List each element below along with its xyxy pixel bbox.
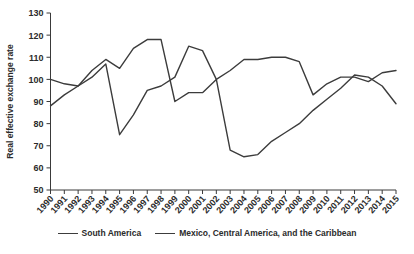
y-tick-label: 80: [33, 119, 43, 129]
series-lines: [51, 40, 397, 157]
legend-label-south-america: South America: [82, 228, 142, 238]
line-chart-plot: 5060708090100110120130 19901991199219931…: [0, 0, 414, 254]
y-tick-label: 110: [29, 53, 44, 63]
y-axis-title: Real effective exchange rate: [5, 44, 15, 159]
legend-label-mexico-central-america-caribbean: Mexico, Central America, and the Caribbe…: [179, 228, 356, 238]
y-tick-label: 50: [33, 185, 43, 195]
series-line-0: [51, 40, 397, 102]
y-tick-label: 130: [28, 8, 43, 18]
y-axis: 5060708090100110120130: [28, 8, 50, 195]
chart-figure: 5060708090100110120130 19901991199219931…: [0, 0, 414, 254]
x-axis: 1990199119921993199419951996199719981999…: [35, 190, 401, 215]
chart-legend: South America Mexico, Central America, a…: [0, 228, 414, 238]
y-axis-title-text: Real effective exchange rate: [5, 44, 15, 159]
y-tick-label: 90: [33, 97, 43, 107]
legend-line-swatch-icon: [155, 233, 175, 234]
legend-line-swatch-icon: [58, 233, 78, 234]
y-tick-label: 60: [33, 163, 43, 173]
y-tick-label: 120: [28, 31, 43, 41]
legend-item-south-america: South America: [58, 228, 142, 238]
y-tick-label: 70: [33, 141, 43, 151]
legend-item-mexico-central-america-caribbean: Mexico, Central America, and the Caribbe…: [155, 228, 356, 238]
y-tick-label: 100: [28, 75, 43, 85]
